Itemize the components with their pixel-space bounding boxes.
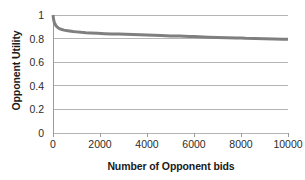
x-axis-title: Number of Opponent bids: [53, 160, 289, 172]
x-tick-label: 2000: [88, 139, 111, 150]
x-tick-label: 8000: [229, 139, 252, 150]
x-tick-label: 4000: [135, 139, 158, 150]
x-tick-label: 10000: [273, 139, 302, 150]
x-tick-label: 6000: [182, 139, 205, 150]
x-axis-tick-labels: 0 2000 4000 6000 8000 10000: [0, 0, 305, 180]
y-axis-title: Opponent Utility: [8, 4, 24, 137]
x-tick-label: 0: [50, 139, 56, 150]
chart-container: 1 0.8 0.6 0.4 0.2 0 0 2000 4000 6000 800…: [0, 0, 305, 180]
